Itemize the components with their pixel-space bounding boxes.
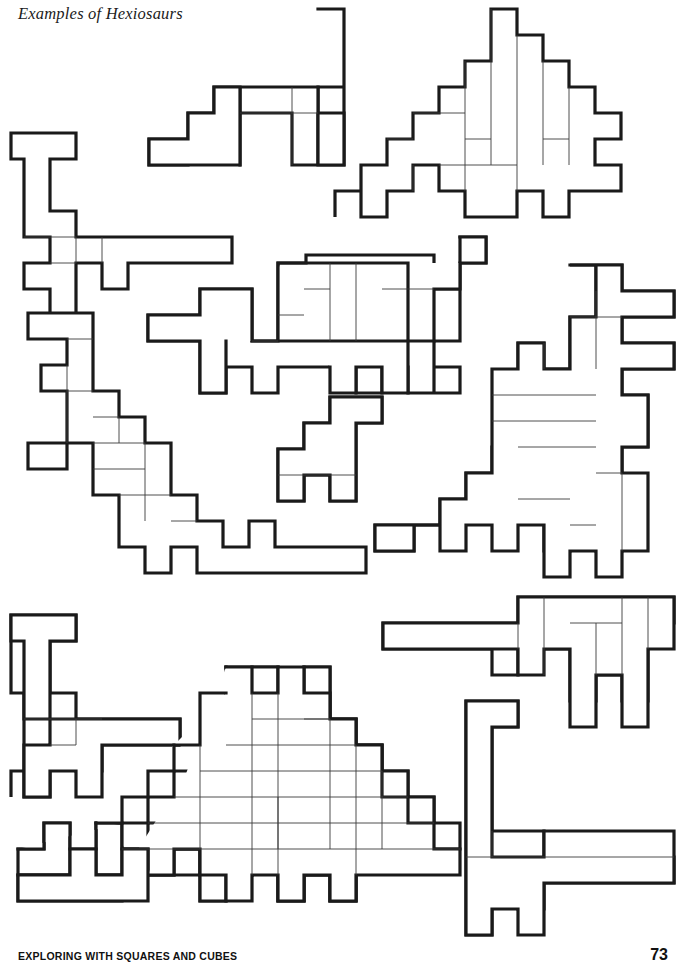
hexiosaur-middle-center-small (278, 397, 382, 501)
hexiosaur-illustrations (0, 0, 686, 940)
hexiosaur-top-right-outline (335, 9, 621, 217)
footer-book-title: EXPLORING WITH SQUARES AND CUBES (18, 950, 237, 962)
book-page: Examples of Hexiosaurs (0, 0, 686, 970)
hexiosaur-bottom-right-lower-body (466, 701, 674, 935)
hexiosaur-middle-center-small-body (278, 397, 382, 501)
hexiosaur-top-right (335, 9, 621, 217)
footer-page-number: 73 (650, 946, 668, 964)
hexiosaur-top-center (149, 9, 344, 165)
hexiosaur-figure-area (0, 0, 686, 940)
page-footer: EXPLORING WITH SQUARES AND CUBES 73 (0, 940, 686, 964)
hexiosaur-bottom-right-body (383, 597, 674, 727)
hexiosaur-bottom-right (383, 597, 674, 935)
